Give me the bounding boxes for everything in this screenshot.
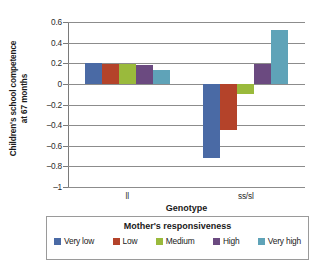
y-tick-label: 0 — [0, 79, 62, 89]
legend-swatch-icon — [113, 238, 120, 245]
legend-item-label: High — [223, 236, 239, 246]
bar — [119, 64, 136, 84]
legend-swatch-icon — [54, 238, 61, 245]
y-tick-label: –0.2 — [0, 100, 62, 110]
legend-item-label: Very high — [268, 236, 301, 246]
legend-swatch-icon — [156, 238, 163, 245]
bar-chart: Children's school competence at 67 month… — [0, 0, 314, 264]
plot-area — [68, 22, 305, 187]
bar — [254, 64, 271, 84]
legend: Mother's responsiveness Very lowLowMediu… — [46, 216, 309, 260]
bar — [102, 64, 119, 84]
bar — [153, 70, 170, 83]
legend-item-label: Medium — [166, 236, 195, 246]
gridline — [68, 84, 305, 85]
y-tick-label: –1 — [0, 182, 62, 192]
x-axis-category-label: ss/sl — [238, 191, 254, 201]
y-tick-label: –0.8 — [0, 161, 62, 171]
gridline — [68, 125, 305, 126]
bar — [85, 63, 102, 84]
legend-items: Very lowLowMediumHighVery high — [47, 231, 308, 246]
legend-item[interactable]: Medium — [156, 236, 195, 246]
y-tick-label: 0.6 — [0, 17, 62, 27]
legend-item-label: Low — [123, 236, 138, 246]
gridline — [68, 43, 305, 44]
y-tick-label: 0.4 — [0, 38, 62, 48]
legend-swatch-icon — [258, 238, 265, 245]
legend-item[interactable]: Very high — [258, 236, 301, 246]
gridline — [68, 166, 305, 167]
y-tick-label: 0.2 — [0, 58, 62, 68]
legend-item[interactable]: High — [213, 236, 239, 246]
gridline — [68, 146, 305, 147]
gridline — [68, 105, 305, 106]
gridline — [68, 187, 305, 188]
x-axis-category-label: ll — [126, 191, 129, 201]
bar — [220, 84, 237, 130]
legend-swatch-icon — [213, 238, 220, 245]
gridline — [68, 22, 305, 23]
legend-item[interactable]: Low — [113, 236, 138, 246]
x-axis-title: Genotype — [68, 203, 305, 213]
bar — [136, 65, 153, 84]
legend-title: Mother's responsiveness — [47, 221, 308, 231]
legend-item[interactable]: Very low — [54, 236, 94, 246]
bar — [203, 84, 220, 158]
y-tick-label: –0.6 — [0, 141, 62, 151]
y-tick-label: –0.4 — [0, 120, 62, 130]
bar — [271, 30, 288, 84]
bar — [237, 84, 254, 94]
legend-item-label: Very low — [64, 236, 94, 246]
